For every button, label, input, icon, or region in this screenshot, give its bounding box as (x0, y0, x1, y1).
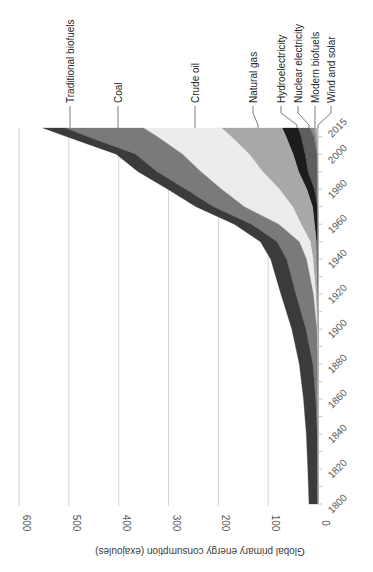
value-tick-label: 300 (171, 515, 182, 532)
year-tick-label: 1880 (326, 352, 350, 376)
label-coal: Coal (113, 82, 124, 103)
label-traditional-biofuels: Traditional biofuels (65, 19, 76, 103)
year-tick-label: 2015 (326, 116, 350, 140)
value-axis: 0100200300400500600 (21, 515, 331, 532)
stacked-areas (43, 128, 318, 504)
year-tick-label: 1820 (326, 457, 350, 481)
year-tick-label: 1900 (326, 317, 350, 341)
value-tick-label: 0 (320, 520, 331, 526)
year-tick-label: 1860 (326, 387, 350, 411)
year-tick-label: 1920 (326, 282, 350, 306)
year-tick-label: 1800 (326, 492, 350, 516)
year-tick-label: 1840 (326, 422, 350, 446)
value-tick-label: 400 (121, 515, 132, 532)
year-tick-label: 1960 (326, 212, 350, 236)
label-nuclear-electricity-leader-line (298, 106, 309, 128)
label-crude-oil: Crude oil (190, 63, 201, 103)
value-tick-label: 600 (21, 515, 32, 532)
label-wind-and-solar: Wind and solar (326, 36, 337, 103)
label-natural-gas-leader-line (253, 106, 258, 128)
label-hydroelectricity-leader-line (281, 106, 297, 128)
series-labels: Traditional biofuelsCoalCrude oilNatural… (65, 19, 337, 128)
year-tick-label: 2000 (326, 142, 350, 166)
value-tick-label: 200 (220, 515, 231, 532)
year-axis: 1800182018401860188019001920194019601980… (318, 116, 349, 516)
label-hydroelectricity: Hydroelectricity (276, 35, 287, 103)
stacked-area-chart: 1800182018401860188019001920194019601980… (0, 0, 373, 572)
label-modern-biofuels: Modern biofuels (310, 32, 321, 103)
value-axis-title: Global primary energy consumption (exajo… (95, 546, 305, 557)
value-tick-label: 500 (71, 515, 82, 532)
label-nuclear-electricity: Nuclear electricity (293, 24, 304, 103)
value-tick-label: 100 (270, 515, 281, 532)
year-tick-label: 1980 (326, 177, 350, 201)
label-wind-and-solar-leader-line (318, 106, 331, 128)
year-tick-label: 1940 (326, 247, 350, 271)
label-natural-gas: Natural gas (248, 52, 259, 103)
